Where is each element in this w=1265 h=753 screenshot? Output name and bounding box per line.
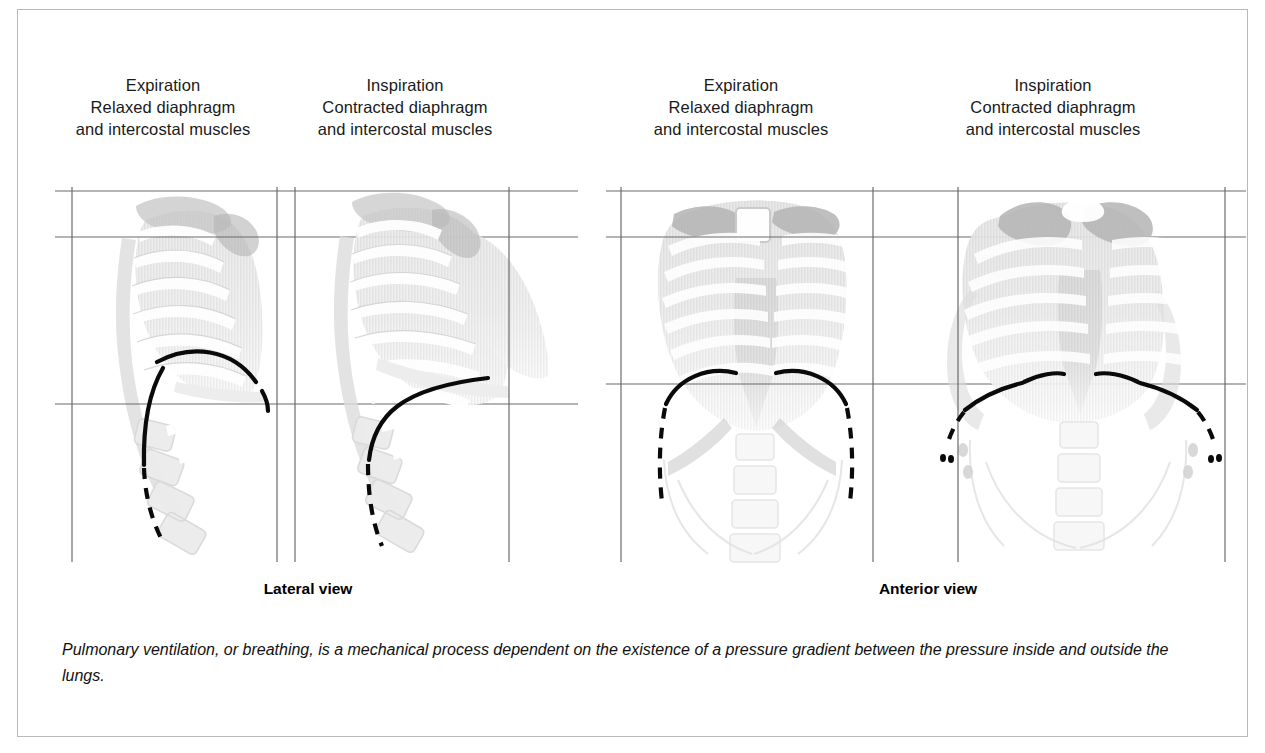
sternum-anterior-expiration — [734, 278, 778, 428]
lumbar-spine-anterior-expiration — [730, 434, 780, 562]
heading-line-phase: Inspiration — [928, 74, 1178, 96]
costal-margin-anterior-expiration — [668, 418, 836, 476]
diaphragm-left-dome-anterior-inspiration — [1096, 373, 1138, 382]
diaphragm-crus-dashed-lateral-expiration — [144, 468, 164, 544]
heading-line-intercostals: and intercostal muscles — [280, 118, 530, 140]
heading-line-intercostals: and intercostal muscles — [38, 118, 288, 140]
ribs-lateral-expiration — [132, 226, 252, 468]
reference-grid-lateral-inspiration — [295, 187, 509, 562]
diaphragm-left-dashed-anterior-expiration — [847, 408, 852, 502]
reference-grid-lateral — [55, 187, 578, 562]
view-caption-lateral: Lateral view — [208, 580, 408, 598]
ribs-anterior-inspiration — [964, 237, 1226, 376]
reference-grid-anterior-inspiration — [958, 187, 1225, 562]
panel-heading-anterior-inspiration: Inspiration Contracted diaphragm and int… — [928, 74, 1178, 140]
ribs-anterior-expiration — [662, 233, 876, 386]
spine-lateral-expiration — [116, 238, 208, 556]
figure-caption: Pulmonary ventilation, or breathing, is … — [62, 637, 1172, 689]
panel-heading-anterior-expiration: Expiration Relaxed diaphragm and interco… — [616, 74, 866, 140]
artwork-anterior-inspiration — [940, 187, 1226, 562]
clavicle-region-anterior-expiration — [672, 206, 840, 238]
diaphragm-right-limb-anterior-inspiration — [965, 383, 1022, 410]
sternum-anterior-inspiration — [1058, 270, 1102, 414]
panel-heading-lateral-expiration: Expiration Relaxed diaphragm and interco… — [38, 74, 288, 140]
diaphragm-curve-lateral-expiration — [157, 351, 256, 382]
clavicle-region-anterior-inspiration — [998, 202, 1153, 246]
view-caption-anterior: Anterior view — [828, 580, 1028, 598]
diaphragm-right-dome-anterior-inspiration — [1024, 373, 1064, 382]
heading-line-muscle: Contracted diaphragm — [928, 96, 1178, 118]
heading-line-phase: Inspiration — [280, 74, 530, 96]
heading-line-muscle: Relaxed diaphragm — [38, 96, 288, 118]
heading-line-phase: Expiration — [38, 74, 288, 96]
heading-line-phase: Expiration — [616, 74, 866, 96]
lumbar-spine-anterior-inspiration — [1054, 422, 1104, 550]
heading-line-intercostals: and intercostal muscles — [928, 118, 1178, 140]
panel-heading-lateral-inspiration: Inspiration Contracted diaphragm and int… — [280, 74, 530, 140]
artwork-lateral-inspiration — [295, 187, 548, 562]
artwork-lateral-expiration — [55, 187, 578, 562]
heading-line-muscle: Contracted diaphragm — [280, 96, 530, 118]
reference-grid-anterior-expiration — [606, 187, 1246, 562]
diaphragm-right-dashed-anterior-expiration — [660, 408, 665, 502]
diaphragm-right-dome-anterior-expiration — [666, 371, 736, 404]
figure-frame: Expiration Relaxed diaphragm and interco… — [17, 9, 1248, 737]
diaphragm-tail-lateral-expiration — [262, 391, 268, 411]
diaphragm-crus-dashed-lateral-inspiration — [368, 464, 382, 546]
diaphragm-crus-lateral-expiration — [144, 368, 163, 465]
ribs-lateral-inspiration — [350, 220, 480, 464]
diaphragm-left-dashed-anterior-inspiration — [1198, 412, 1215, 446]
spine-lateral-inspiration — [334, 236, 426, 554]
heading-line-muscle: Relaxed diaphragm — [616, 96, 866, 118]
heading-line-intercostals: and intercostal muscles — [616, 118, 866, 140]
diaphragm-right-dashed-anterior-inspiration — [947, 412, 964, 446]
artwork-anterior-expiration — [606, 187, 1246, 562]
diaphragm-curve-lateral-inspiration — [369, 378, 488, 460]
diaphragm-left-limb-anterior-inspiration — [1140, 383, 1197, 410]
diaphragm-left-dome-anterior-expiration — [776, 371, 846, 404]
